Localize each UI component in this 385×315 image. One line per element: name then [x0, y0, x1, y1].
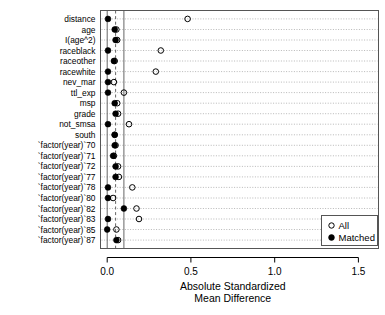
y-tick-label: `factor(year)`78 — [38, 182, 96, 192]
point-matched — [105, 48, 111, 54]
point-matched — [113, 174, 119, 180]
y-tick-label: south — [75, 130, 96, 140]
y-tick-label: distance — [64, 14, 96, 24]
y-tick-label: I(age^2) — [65, 35, 96, 45]
reference-lines — [107, 11, 124, 249]
panel-border — [101, 11, 379, 249]
point-matched — [104, 227, 110, 233]
x-tick-label: 0.0 — [100, 266, 114, 277]
plot-canvas: distanceageI(age^2)raceblackraceotherrac… — [0, 0, 385, 315]
y-tick-label: ttl_exp — [71, 88, 96, 98]
y-tick-label: `factor(year)`80 — [38, 193, 96, 203]
y-tick-label: `factor(year)`85 — [38, 225, 96, 235]
point-matched — [105, 79, 111, 85]
point-matched — [113, 37, 119, 43]
point-matched — [113, 111, 119, 117]
y-tick-label: `factor(year)`72 — [38, 161, 96, 171]
y-tick-label: msp — [80, 98, 96, 108]
point-matched — [105, 216, 111, 222]
point-matched — [105, 185, 111, 191]
x-tick-label: 1.0 — [268, 266, 282, 277]
y-tick-label: age — [82, 25, 96, 35]
point-matched — [114, 237, 120, 243]
y-tick-label: raceother — [60, 56, 96, 66]
y-axis-labels: distanceageI(age^2)raceblackraceotherrac… — [38, 14, 97, 245]
point-matched — [112, 142, 118, 148]
y-tick-label: `factor(year)`71 — [38, 151, 96, 161]
x-tick-label: 0.5 — [184, 266, 198, 277]
gridlines — [102, 19, 378, 240]
point-matched — [105, 69, 111, 75]
y-tick-label: `factor(year)`87 — [38, 235, 96, 245]
point-matched — [110, 153, 116, 159]
x-axis-title-line-1: Absolute Standardized — [180, 280, 286, 292]
y-tick-label: raceblack — [60, 46, 97, 56]
point-matched — [112, 27, 118, 33]
point-matched — [111, 58, 117, 64]
legend: AllMatched — [322, 216, 378, 246]
legend-label-matched: Matched — [339, 232, 375, 243]
point-matched — [105, 16, 111, 22]
point-matched — [112, 100, 118, 106]
y-tick-label: `factor(year)`83 — [38, 214, 96, 224]
y-tick-label: grade — [74, 109, 96, 119]
y-tick-label: nev_mar — [63, 77, 96, 87]
x-axis: 0.00.51.01.5 — [100, 258, 366, 277]
x-axis-title-line-2: Mean Difference — [194, 292, 271, 304]
y-tick-label: `factor(year)`70 — [38, 140, 96, 150]
point-matched — [105, 195, 111, 201]
y-tick-label: racewhite — [60, 67, 96, 77]
point-all — [114, 227, 120, 233]
love-plot: distanceageI(age^2)raceblackraceotherrac… — [0, 0, 385, 315]
point-matched — [105, 90, 111, 96]
x-tick-label: 1.5 — [351, 266, 365, 277]
y-tick-label: `factor(year)`82 — [38, 204, 96, 214]
x-axis-title: Absolute StandardizedMean Difference — [180, 280, 286, 304]
point-matched — [105, 121, 111, 127]
point-matched — [121, 206, 127, 212]
point-matched — [113, 164, 119, 170]
y-tick-label: not_smsa — [59, 119, 96, 129]
legend-label-all: All — [339, 220, 350, 231]
legend-marker-matched — [329, 235, 335, 241]
y-tick-label: `factor(year)`77 — [38, 172, 96, 182]
point-matched — [112, 132, 118, 138]
